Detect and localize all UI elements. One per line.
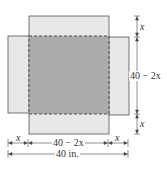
label-horizontal-base-side: 40 − 2x — [52, 138, 85, 148]
label-bottom-flap-x: x — [140, 119, 144, 129]
left-flap — [8, 36, 29, 113]
right-flap — [109, 37, 129, 115]
label-top-flap-x: x — [140, 22, 144, 32]
label-left-flap-x: x — [16, 133, 20, 143]
base-square — [29, 36, 109, 114]
label-vertical-base-side: 40 − 2x — [129, 71, 162, 81]
label-total-width: 40 in. — [55, 149, 80, 159]
label-right-flap-x: x — [115, 133, 119, 143]
